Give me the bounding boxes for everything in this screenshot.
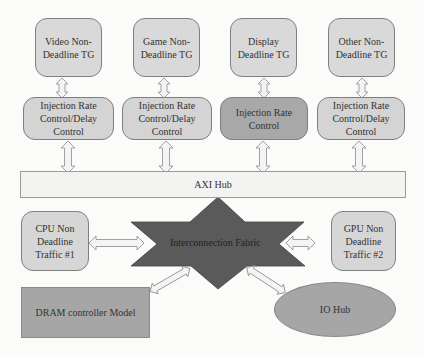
cpu-non-deadline-traffic-1: CPU NonDeadlineTraffic #1 [21,211,89,271]
axi-hub: AXI Hub [20,171,406,198]
dram-controller-model: DRAM controller Model [21,287,150,338]
injection-rate-control-display: Injection RateControl [220,97,308,140]
game-non-deadline-tg: Game Non-Deadline TG [133,18,200,77]
display-deadline-tg: DisplayDeadline TG [230,18,297,77]
injection-rate-delay-control-video: Injection RateControl/DelayControl [23,97,114,140]
double-arrow-icon [56,78,368,98]
injection-rate-delay-control-game: Injection RateControl/DelayControl [122,97,212,140]
double-arrow-icon [61,141,366,173]
gpu-non-deadline-traffic-2: GPU NonDeadlineTraffic #2 [331,211,396,271]
interconnection-fabric-label: Interconnection Fabric [170,237,261,248]
io-hub: IO Hub [274,282,396,337]
other-non-deadline-tg: Other Non-Deadline TG [328,18,395,77]
video-non-deadline-tg: Video Non-Deadline TG [35,18,102,77]
injection-rate-delay-control-other: Injection RateControl/DelayControl [317,97,405,140]
